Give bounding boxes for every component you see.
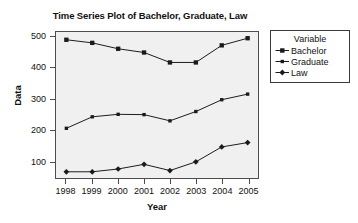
data-point <box>64 38 68 42</box>
x-tick-mark <box>118 179 119 184</box>
data-point <box>141 161 147 167</box>
data-point <box>116 113 119 116</box>
plot-series-layer <box>56 32 258 178</box>
x-tick-mark <box>92 179 93 184</box>
series-graduate <box>65 92 250 130</box>
data-point <box>219 144 225 150</box>
chart-title: Time Series Plot of Bachelor, Graduate, … <box>0 10 300 21</box>
data-point <box>65 127 68 130</box>
x-tick-label: 2005 <box>239 186 259 196</box>
x-tick-mark <box>65 179 66 184</box>
y-tick-label: 300 <box>31 94 46 104</box>
data-point <box>245 140 251 146</box>
data-point <box>194 110 197 113</box>
data-point <box>220 98 223 101</box>
x-tick-label: 2000 <box>108 186 128 196</box>
legend-marker-icon <box>275 45 290 56</box>
x-tick-label: 2004 <box>212 186 232 196</box>
data-point <box>220 43 224 47</box>
data-point <box>142 113 145 116</box>
x-tick-mark <box>144 179 145 184</box>
data-point <box>115 166 121 172</box>
legend-item-label: Law <box>291 68 308 78</box>
series-bachelor <box>64 36 250 65</box>
data-point <box>116 47 120 51</box>
y-tick-label: 500 <box>31 31 46 41</box>
y-tick-label: 200 <box>31 125 46 135</box>
plot-area <box>55 31 259 179</box>
x-tick-mark <box>170 179 171 184</box>
legend-item-graduate[interactable]: Graduate <box>275 56 345 67</box>
x-tick-label: 2003 <box>186 186 206 196</box>
legend: Variable BachelorGraduateLaw <box>270 30 350 83</box>
legend-item-label: Graduate <box>291 57 329 67</box>
x-tick-mark <box>196 179 197 184</box>
data-point <box>167 168 173 174</box>
y-tick-label: 400 <box>31 62 46 72</box>
legend-item-bachelor[interactable]: Bachelor <box>275 45 345 56</box>
x-tick-label: 1998 <box>55 186 75 196</box>
data-point <box>168 119 171 122</box>
data-point <box>246 92 249 95</box>
data-point <box>90 41 94 45</box>
data-point <box>63 169 69 175</box>
data-point <box>245 36 249 40</box>
legend-items: BachelorGraduateLaw <box>275 45 345 78</box>
x-tick-mark <box>222 179 223 184</box>
time-series-chart: Time Series Plot of Bachelor, Graduate, … <box>0 0 358 223</box>
x-axis-title: Year <box>55 201 259 212</box>
x-tick-mark <box>249 179 250 184</box>
data-point <box>142 50 146 54</box>
data-point <box>91 115 94 118</box>
legend-item-law[interactable]: Law <box>275 67 345 78</box>
legend-title: Variable <box>275 34 345 44</box>
x-tick-label: 2001 <box>134 186 154 196</box>
legend-marker-icon <box>275 67 290 78</box>
legend-marker-icon <box>275 56 290 67</box>
data-point <box>168 60 172 64</box>
data-point <box>194 60 198 64</box>
data-point <box>193 159 199 165</box>
y-axis-tick-labels: 100200300400500 <box>18 31 51 179</box>
x-tick-label: 2002 <box>160 186 180 196</box>
legend-item-label: Bachelor <box>291 46 327 56</box>
x-tick-label: 1999 <box>82 186 102 196</box>
data-point <box>89 169 95 175</box>
y-tick-label: 100 <box>31 157 46 167</box>
series-law <box>63 140 250 175</box>
